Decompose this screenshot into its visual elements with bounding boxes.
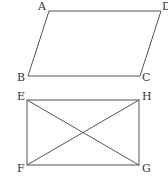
- vertex-label-e: E: [17, 90, 25, 103]
- vertex-label-h: H: [142, 90, 152, 103]
- geometry-figure: A D B C E H F G: [0, 0, 168, 186]
- vertex-label-a: A: [37, 0, 47, 13]
- vertex-label-g: G: [142, 162, 151, 175]
- vertex-label-c: C: [142, 71, 150, 84]
- vertex-label-d: D: [162, 0, 168, 13]
- vertex-label-b: B: [17, 71, 25, 84]
- parallelogram-abcd: [28, 11, 161, 76]
- vertex-label-f: F: [17, 162, 25, 175]
